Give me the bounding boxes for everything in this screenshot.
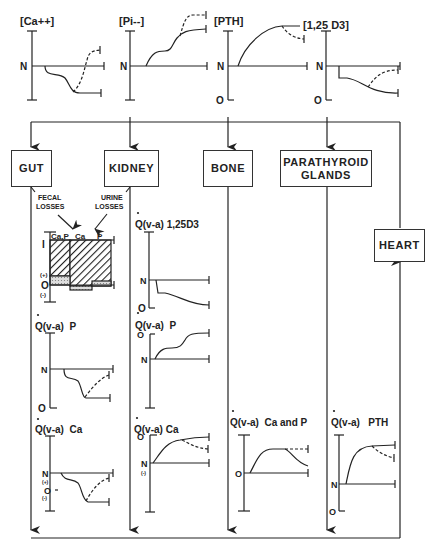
- axis-plus: (+): [40, 272, 48, 278]
- kidney-d3-title: Q(v-a) 1,25D3: [135, 219, 199, 230]
- axis-n: N: [140, 276, 147, 286]
- graph-kidney-calcium: [145, 433, 209, 512]
- bone-title: Q(v-a) Ca and P: [230, 417, 308, 428]
- fecal-losses-label: FECAL: [38, 194, 62, 201]
- axis-o: O: [314, 95, 322, 106]
- graph-kidney-phosphate: [145, 329, 209, 408]
- heart-label: HEART: [379, 239, 420, 252]
- parathyroid-label-line2: GLANDS: [301, 169, 351, 182]
- axis-minus: (-): [141, 470, 146, 476]
- organ-box-parathyroid: PARATHYROID GLANDS: [280, 150, 372, 187]
- fecal-losses-label: LOSSES: [36, 203, 65, 210]
- organ-box-bone: BONE: [203, 150, 253, 187]
- axis-o: O: [41, 280, 49, 291]
- graph-gut-phosphate: [45, 333, 113, 408]
- axis-o: O: [235, 469, 242, 479]
- organ-box-kidney: KIDNEY: [104, 150, 159, 187]
- axis-n: N: [141, 459, 148, 469]
- axis-n: N: [41, 365, 48, 375]
- axis-o: O: [137, 330, 144, 340]
- axis-o: O: [216, 95, 224, 106]
- urine-losses-label: URINE: [101, 194, 123, 201]
- bone-label: BONE: [211, 162, 245, 175]
- axis-o: O: [137, 432, 144, 442]
- axis-i: I: [42, 239, 45, 250]
- label-serum-calcitriol: [1,25 D3]: [303, 19, 349, 31]
- kidney-label: KIDNEY: [109, 162, 154, 175]
- col-label: Ca: [75, 232, 86, 241]
- urine-losses-label: LOSSES: [95, 203, 124, 210]
- pth-title: Q(v-a) PTH: [331, 417, 388, 428]
- graph-serum-calcitriol: [321, 31, 400, 100]
- axis-n: N: [141, 355, 148, 365]
- graph-kidney-calcitriol: [144, 232, 209, 309]
- axis-o: O: [138, 303, 146, 314]
- axis-n: N: [42, 469, 49, 479]
- col-label: Ca,P: [51, 232, 69, 241]
- label-serum-pth: [PTH]: [214, 15, 244, 27]
- gut-label: GUT: [19, 162, 44, 175]
- axis-minus: (-): [40, 292, 46, 298]
- organ-box-heart: HEART: [374, 229, 425, 262]
- diagram-canvas: [Ca++] [Pi--] [PTH] [1,25 D3] N N N O N …: [0, 0, 435, 546]
- axis-n: N: [20, 61, 27, 72]
- axis-n: N: [316, 61, 323, 72]
- axis-n: N: [331, 480, 338, 490]
- axis-n: N: [120, 61, 127, 72]
- parathyroid-label-line1: PARATHYROID: [283, 156, 369, 169]
- graph-serum-pth: [223, 26, 307, 100]
- graph-serum-calcium: [27, 31, 104, 100]
- label-serum-calcium: [Ca++]: [20, 15, 55, 27]
- graph-gut-calcium: [45, 436, 113, 511]
- axis-plus: (+): [42, 479, 49, 485]
- axis-o: O: [38, 403, 46, 414]
- organ-box-gut: GUT: [11, 150, 52, 187]
- axis-n: N: [217, 61, 224, 72]
- axis-minus: (-): [42, 495, 47, 501]
- gut-p-title: Q(v-a) P: [35, 321, 76, 332]
- axis-o: O: [329, 507, 336, 517]
- label-serum-phosphate: [Pi--]: [119, 15, 144, 27]
- gut-ca-title: Q(v-a) Ca: [35, 424, 83, 435]
- col-label: P: [97, 232, 103, 241]
- graph-parathyroid-pth: [334, 435, 395, 511]
- graph-bone-ca-p: [238, 435, 308, 511]
